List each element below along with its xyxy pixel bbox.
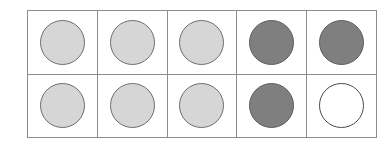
- grid-cell-r2c1[interactable]: [28, 74, 98, 138]
- table-row: [28, 11, 377, 75]
- circle-icon: [319, 20, 364, 65]
- circle-icon: [40, 83, 85, 128]
- circle-grid-table: [27, 10, 377, 138]
- circle-icon: [40, 20, 85, 65]
- circle-icon: [249, 20, 294, 65]
- grid-cell-r1c1[interactable]: [28, 11, 98, 75]
- circle-grid-body: [28, 11, 377, 138]
- grid-cell-r1c4[interactable]: [237, 11, 307, 75]
- circle-icon: [249, 83, 294, 128]
- grid-cell-r2c3[interactable]: [167, 74, 237, 138]
- circle-icon: [179, 83, 224, 128]
- circle-icon: [319, 83, 364, 128]
- grid-cell-r1c5[interactable]: [307, 11, 377, 75]
- circle-icon: [110, 20, 155, 65]
- grid-cell-r1c3[interactable]: [167, 11, 237, 75]
- table-row: [28, 74, 377, 138]
- circle-icon: [110, 83, 155, 128]
- grid-cell-r1c2[interactable]: [97, 11, 167, 75]
- grid-cell-r2c5[interactable]: [307, 74, 377, 138]
- grid-cell-r2c4[interactable]: [237, 74, 307, 138]
- grid-cell-r2c2[interactable]: [97, 74, 167, 138]
- circle-icon: [179, 20, 224, 65]
